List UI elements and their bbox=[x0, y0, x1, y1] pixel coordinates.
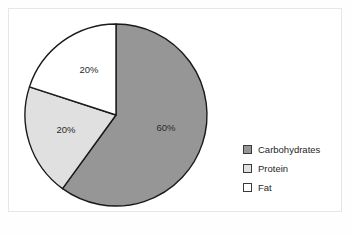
legend-item-label: Protein bbox=[258, 164, 288, 174]
legend-item-label: Fat bbox=[258, 183, 272, 193]
pie-chart-svg: 60%20%20% bbox=[0, 0, 352, 235]
legend-swatch-icon-carbohydrates bbox=[243, 145, 252, 154]
legend-item-protein[interactable]: Protein bbox=[243, 159, 339, 178]
slice-label-protein: 20% bbox=[56, 124, 76, 135]
pie-chart: 60%20%20% bbox=[0, 0, 352, 235]
slice-label-fat: 20% bbox=[79, 64, 99, 75]
legend-swatch-icon-fat bbox=[243, 183, 252, 192]
legend-item-fat[interactable]: Fat bbox=[243, 178, 339, 197]
legend-item-carbohydrates[interactable]: Carbohydrates bbox=[243, 140, 339, 159]
slice-label-carbohydrates: 60% bbox=[156, 122, 176, 133]
pie-slices-group bbox=[25, 24, 207, 206]
legend-swatch-icon-protein bbox=[243, 164, 252, 173]
chart-legend: CarbohydratesProteinFat bbox=[243, 140, 339, 197]
legend-item-label: Carbohydrates bbox=[258, 145, 320, 155]
pie-chart-screenshot: 60%20%20% CarbohydratesProteinFat bbox=[0, 0, 352, 235]
